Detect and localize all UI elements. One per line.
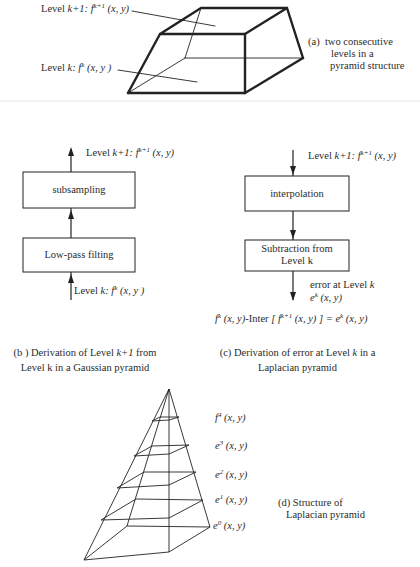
level-k-label: Level k: fk (x, y ) [41, 62, 111, 74]
eq-sup: k+1 [281, 312, 292, 320]
subsampling-label: subsampling [23, 184, 135, 195]
label-args: (x, y) [318, 292, 342, 303]
error-label: error at Level k [310, 279, 374, 291]
label-var: k+1: [113, 147, 134, 158]
caption-a: (a) two consecutive levels in a pyramid … [308, 36, 404, 72]
caption-d-line2: Laplacian pyramid [278, 509, 365, 521]
laplacian-equation: fk (x, y)-Inter [ fk+1 (x, y) ] = ek (x,… [215, 313, 367, 325]
level-args: (x, y) [223, 494, 247, 505]
arrow-up-icon [68, 147, 74, 156]
label-sup: k+1 [139, 146, 150, 154]
label-args: (x, y ) [117, 285, 144, 296]
caption-a-line1: (a) two consecutive [308, 36, 404, 48]
eq-args: (x, y) ] [292, 313, 323, 324]
gaussian-flow [23, 149, 135, 300]
level-args: (x, y) [223, 469, 247, 480]
label-prefix: Level [41, 62, 68, 73]
caption-c-line2: Laplacian pyramid [205, 360, 390, 375]
leader-line-top [132, 11, 215, 26]
arrow-down-icon [290, 230, 296, 239]
laplacian-flow [245, 150, 349, 300]
eq-args: (x, y) [343, 313, 367, 324]
label-var: k: [101, 285, 109, 296]
eq-inter: -Inter [245, 313, 271, 324]
caption-text: two consecutive [325, 36, 393, 47]
gaussian-output-label: Level k+1: fk+1 (x, y) [86, 147, 174, 159]
level-args: (x, y) [221, 412, 245, 423]
label-var: k+1: [335, 150, 356, 161]
caption-b-line2: Level k in a Gaussian pyramid [10, 360, 160, 375]
pyramid-level-label: e0 (x, y) [213, 520, 245, 532]
caption-c: (c) Derivation of error at Level k in a … [205, 345, 390, 375]
caption-text: (c) Derivation of error at Level [220, 347, 353, 358]
eq-bracket: [ f [271, 313, 281, 324]
level-args: (x, y) [223, 440, 247, 451]
frustum-two-levels [118, 8, 303, 93]
caption-text: in a [357, 347, 375, 358]
caption-text: (b ) Derivation of Level [14, 347, 117, 358]
label-var: k+1: [68, 3, 89, 14]
pyramid-level-label: e2 (x, y) [215, 469, 247, 481]
label-var: k: [68, 62, 76, 73]
caption-text: from [133, 347, 156, 358]
caption-b-line1: (b ) Derivation of Level k+1 from [10, 345, 160, 360]
caption-c-line1: (c) Derivation of error at Level k in a [205, 345, 390, 360]
eq-args: (x, y) [221, 313, 245, 324]
eq-equals: = e [323, 313, 340, 324]
arrow-up-icon [68, 210, 74, 219]
label-prefix: error at Level [310, 279, 370, 290]
caption-d: (d) Structure of Laplacian pyramid [278, 497, 365, 521]
caption-a-line2: levels in a [308, 48, 404, 60]
level-args: (x, y) [221, 520, 245, 531]
pyramid-level-label: e1 (x, y) [215, 494, 247, 506]
label-sup: k+1 [94, 2, 105, 10]
leader-line-bottom [118, 70, 197, 82]
subtraction-line2: Level k [245, 255, 349, 267]
label-args: (x, y) [105, 3, 129, 14]
pyramid-level-label: f4 (x, y) [215, 412, 246, 424]
caption-var: k+1 [116, 347, 133, 358]
level-k-plus-1-label: Level k+1: fk+1 (x, y) [41, 3, 129, 15]
label-sup: k+1 [361, 149, 372, 157]
laplacian-input-label: Level k+1: fk+1 (x, y) [308, 150, 396, 162]
caption-d-line1: (d) Structure of [278, 497, 365, 509]
label-prefix: Level [86, 147, 113, 158]
subtraction-line1: Subtraction from [245, 243, 349, 255]
lowpass-label: Low-pass filting [23, 249, 135, 260]
laplacian-pyramid [84, 389, 210, 560]
pyramid-level-label: e3 (x, y) [215, 440, 247, 452]
interpolation-label: interpolation [245, 188, 349, 199]
arrow-down-icon [290, 166, 296, 175]
caption-a-line3: pyramid structure [308, 60, 404, 72]
label-var: k [370, 279, 375, 290]
error-symbol-label: ek (x, y) [310, 292, 342, 304]
label-prefix: Level [308, 150, 335, 161]
label-args: (x, y) [150, 147, 174, 158]
label-args: (x, y) [372, 150, 396, 161]
subtraction-label: Subtraction from Level k [245, 243, 349, 267]
arrow-down-icon [290, 292, 296, 301]
label-prefix: Level [74, 285, 101, 296]
caption-b: (b ) Derivation of Level k+1 from Level … [10, 345, 160, 375]
caption-marker: (a) [308, 36, 320, 47]
arrow-up-icon [68, 274, 74, 283]
label-args: (x, y ) [84, 62, 111, 73]
label-prefix: Level [41, 3, 68, 14]
gaussian-input-label: Level k: fk (x, y ) [74, 285, 144, 297]
